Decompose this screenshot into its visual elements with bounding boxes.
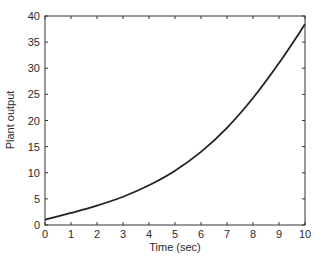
line-chart: 012345678910 0510152025303540 Time (sec)… xyxy=(0,0,325,267)
x-tick-label: 3 xyxy=(120,228,126,240)
x-tick-label: 1 xyxy=(68,228,74,240)
x-tick-label: 5 xyxy=(172,228,178,240)
x-tick-label: 8 xyxy=(250,228,256,240)
y-tick-label: 5 xyxy=(34,193,40,205)
x-tick-label: 4 xyxy=(146,228,152,240)
y-tick-label: 25 xyxy=(28,88,40,100)
y-tick-label: 20 xyxy=(28,115,40,127)
x-axis-label: Time (sec) xyxy=(149,241,201,253)
y-tick-labels: 0510152025303540 xyxy=(28,10,40,231)
y-tick-label: 40 xyxy=(28,10,40,22)
x-tick-label: 7 xyxy=(224,228,230,240)
x-tick-label: 6 xyxy=(198,228,204,240)
y-tick-label: 30 xyxy=(28,62,40,74)
x-tick-label: 2 xyxy=(94,228,100,240)
x-tick-labels: 012345678910 xyxy=(42,228,311,240)
y-tick-label: 15 xyxy=(28,141,40,153)
y-tick-label: 10 xyxy=(28,167,40,179)
y-axis-label: Plant output xyxy=(4,91,16,150)
x-tick-label: 10 xyxy=(299,228,311,240)
x-tick-label: 0 xyxy=(42,228,48,240)
plant-output-line xyxy=(45,24,305,219)
x-tick-label: 9 xyxy=(276,228,282,240)
y-tick-label: 35 xyxy=(28,36,40,48)
y-tick-label: 0 xyxy=(34,219,40,231)
axes-box xyxy=(45,16,305,225)
axis-ticks xyxy=(45,16,305,225)
chart-svg: 012345678910 0510152025303540 Time (sec)… xyxy=(0,0,325,267)
